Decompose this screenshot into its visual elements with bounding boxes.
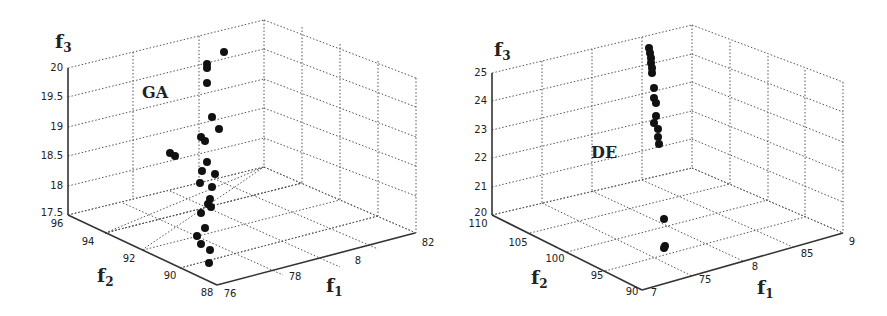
ga-f2-label: f2 [97,264,114,289]
data-point [201,224,209,232]
svg-text:23: 23 [474,124,487,135]
svg-text:8: 8 [752,261,758,272]
data-point [198,167,206,175]
svg-text:92: 92 [123,253,136,264]
data-point [650,84,658,92]
svg-text:90: 90 [164,270,177,281]
de-data-points [645,44,669,252]
ga-f2-ticks: 96 94 92 90 88 [51,218,214,298]
de-f2-axis [492,215,642,290]
svg-text:19.5: 19.5 [41,91,63,102]
ga-plot: 20 19.5 19 18.5 18 17.5 96 94 92 90 88 7… [41,20,435,299]
de-f1-ticks: 7 75 8 85 9 [651,236,855,298]
data-point [208,113,216,121]
ga-f3-ticks: 20 19.5 19 18.5 18 17.5 [41,62,63,218]
data-point [193,232,201,240]
de-f1-label: f1 [757,276,774,301]
de-grid [492,25,843,276]
data-point [201,137,209,145]
svg-text:110: 110 [468,218,487,229]
data-point [660,215,668,223]
ga-title: GA [142,83,169,102]
svg-text:88: 88 [201,287,214,298]
de-title: DE [591,143,617,162]
data-point [660,244,668,252]
svg-text:7: 7 [651,287,657,298]
data-point [206,246,214,254]
svg-text:90: 90 [626,286,639,297]
svg-text:20: 20 [474,207,487,218]
de-f1-axis [642,233,843,290]
svg-text:82: 82 [422,237,435,248]
de-f2-label: f2 [531,266,548,291]
data-point [203,79,211,87]
svg-text:8: 8 [355,255,361,266]
de-f2-ticks: 110 105 100 95 90 [468,218,638,297]
svg-text:94: 94 [82,236,95,247]
svg-text:100: 100 [545,253,564,264]
data-point [207,203,215,211]
svg-text:85: 85 [801,248,814,259]
svg-text:21: 21 [474,181,487,192]
data-point [655,140,663,148]
svg-text:9: 9 [849,236,855,247]
svg-text:105: 105 [508,237,527,248]
svg-text:24: 24 [474,95,487,106]
data-point [197,240,205,248]
ga-data-points [166,48,228,267]
ga-f1-label: f1 [326,274,343,299]
data-point [654,133,662,141]
svg-text:96: 96 [51,218,64,229]
data-point [208,183,216,191]
data-point [203,158,211,166]
svg-text:76: 76 [224,288,237,299]
data-point [197,209,205,217]
ga-f2-axis [68,215,217,285]
de-f3-label: f3 [494,38,511,63]
ga-f1-axis [217,233,415,285]
data-point [215,125,223,133]
data-point [652,99,660,107]
data-point [211,170,219,178]
de-plot: 25 24 23 22 21 20 110 105 100 95 90 7 75… [468,25,855,301]
svg-text:18: 18 [50,180,63,191]
figure: 20 19.5 19 18.5 18 17.5 96 94 92 90 88 7… [0,0,887,316]
data-point [205,259,213,267]
svg-text:25: 25 [474,67,487,78]
data-point [652,112,660,120]
svg-text:22: 22 [474,152,487,163]
ga-f3-label: f3 [55,30,72,55]
svg-text:75: 75 [699,274,712,285]
data-point [220,48,228,56]
ga-grid [68,20,416,275]
data-point [648,69,656,77]
svg-text:18.5: 18.5 [41,150,63,161]
data-point [203,64,211,72]
svg-text:95: 95 [591,270,604,281]
svg-text:19: 19 [50,121,63,132]
data-point [654,125,662,133]
de-f3-ticks: 25 24 23 22 21 20 [474,67,487,218]
data-point [196,179,204,187]
svg-text:17.5: 17.5 [41,207,63,218]
svg-text:20: 20 [50,62,63,73]
svg-text:78: 78 [289,271,302,282]
data-point [171,152,179,160]
